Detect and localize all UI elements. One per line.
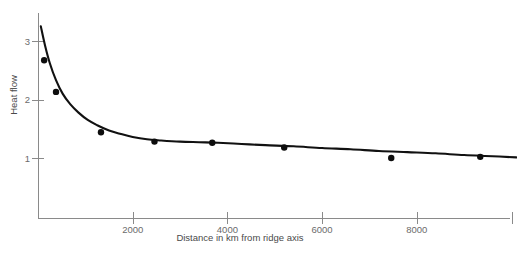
y-axis-ticks: 123 xyxy=(25,36,44,164)
fitted-curve xyxy=(41,26,516,157)
x-axis-title: Distance in km from ridge axis xyxy=(176,232,303,243)
x-tick-label: 8000 xyxy=(406,224,427,235)
heat-flow-chart: 123 2000400060008000 Distance in km from… xyxy=(0,0,517,258)
axes-group xyxy=(38,13,510,219)
data-point xyxy=(209,140,215,146)
x-tick-label: 2000 xyxy=(122,224,143,235)
x-tick-label: 6000 xyxy=(312,224,333,235)
data-point xyxy=(53,89,59,95)
heat-flow-figure: 123 2000400060008000 Distance in km from… xyxy=(0,0,517,258)
y-tick-label: 2 xyxy=(25,94,30,105)
y-tick-label: 3 xyxy=(25,36,30,47)
data-point xyxy=(281,144,287,150)
data-point xyxy=(98,129,104,135)
y-tick-label: 1 xyxy=(25,153,30,164)
data-point xyxy=(151,138,157,144)
data-point xyxy=(388,155,394,161)
data-point xyxy=(41,57,47,63)
y-axis-title: Heat flow xyxy=(8,75,19,115)
data-point xyxy=(477,154,483,160)
